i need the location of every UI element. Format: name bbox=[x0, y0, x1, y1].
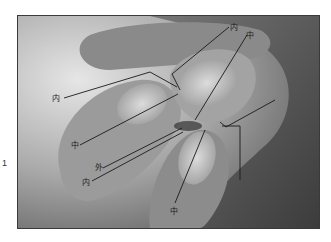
label-top-inner: 内 bbox=[230, 22, 238, 32]
label-top-middle: 中 bbox=[246, 30, 254, 40]
label-lower-inner: 内 bbox=[82, 177, 90, 187]
label-left-inner: 内 bbox=[52, 93, 60, 103]
label-left-middle: 中 bbox=[71, 140, 79, 150]
label-bottom-middle: 中 bbox=[170, 206, 178, 216]
annotated-photo: 内 中 内 中 外 内 中 bbox=[0, 0, 331, 242]
photo-content bbox=[18, 16, 319, 228]
label-outer: 外 bbox=[95, 162, 103, 172]
